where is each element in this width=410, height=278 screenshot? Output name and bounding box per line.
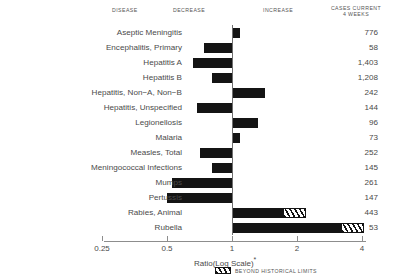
cases-current-4-weeks-value: 1,403	[330, 57, 378, 68]
column-header-disease: DISEASE	[112, 7, 138, 13]
legend: BEYOND HISTORICAL LIMITS	[215, 267, 317, 274]
beyond-historical-limits-bar	[283, 208, 306, 218]
cases-current-4-weeks-value: 96	[330, 117, 378, 128]
x-axis-tick	[297, 236, 298, 241]
disease-label: Aseptic Meningitis	[0, 27, 182, 38]
legend-label: BEYOND HISTORICAL LIMITS	[235, 268, 317, 274]
disease-label: Hepatitis, Unspecified	[0, 102, 182, 113]
cases-current-4-weeks-value: 443	[330, 207, 378, 218]
chart-row: Hepatitis B1,208	[0, 70, 410, 85]
disease-label: Legionellosis	[0, 117, 182, 128]
chart-row: Hepatitis A1,403	[0, 55, 410, 70]
chart-row: Aseptic Meningitis776	[0, 25, 410, 40]
ratio-bar	[232, 118, 258, 128]
chart-row: Meningococcal Infections145	[0, 160, 410, 175]
disease-label: Measles, Total	[0, 147, 182, 158]
cases-current-4-weeks-value: 776	[330, 27, 378, 38]
x-axis-title-footnote-marker: *	[254, 256, 257, 263]
cases-current-4-weeks-value: 261	[330, 177, 378, 188]
chart-row: Rubella53	[0, 220, 410, 235]
column-header-decrease: DECREASE	[173, 7, 205, 13]
cases-current-4-weeks-value: 1,208	[330, 72, 378, 83]
cases-current-4-weeks-value: 53	[330, 222, 378, 233]
disease-label: Mumps	[0, 177, 182, 188]
chart-row: Mumps261	[0, 175, 410, 190]
x-axis-tick-label: 0.5	[161, 244, 172, 253]
chart-row: Malaria73	[0, 130, 410, 145]
x-axis-tick	[102, 236, 103, 241]
disease-label: Malaria	[0, 132, 182, 143]
ratio-bar	[232, 28, 240, 38]
cases-current-4-weeks-value: 252	[330, 147, 378, 158]
x-axis-tick-label: 0.25	[94, 244, 110, 253]
column-header-cases: CASES CURRENT 4 WEEKS	[326, 5, 386, 17]
disease-label: Rubella	[0, 222, 182, 233]
disease-label: Meningococcal Infections	[0, 162, 182, 173]
ratio-bar	[212, 73, 232, 83]
cases-current-4-weeks-value: 58	[330, 42, 378, 53]
chart-row: Encephalitis, Primary58	[0, 40, 410, 55]
ratio-bar	[232, 223, 341, 233]
ratio-bar	[232, 208, 283, 218]
notifiable-disease-chart: DISEASE DECREASE INCREASE CASES CURRENT …	[0, 0, 410, 278]
ratio-bar	[193, 58, 232, 68]
cases-current-4-weeks-value: 242	[330, 87, 378, 98]
disease-label: Hepatitis B	[0, 72, 182, 83]
column-header-increase: INCREASE	[263, 7, 293, 13]
cases-current-4-weeks-value: 144	[330, 102, 378, 113]
disease-label: Hepatitis A	[0, 57, 182, 68]
cases-current-4-weeks-value: 73	[330, 132, 378, 143]
x-axis-title: Ratio(Log Scale)*	[194, 256, 256, 268]
chart-rows: Aseptic Meningitis776Encephalitis, Prima…	[0, 25, 410, 235]
disease-label: Pertussis	[0, 192, 182, 203]
x-axis-line	[104, 241, 366, 242]
chart-row: Legionellosis96	[0, 115, 410, 130]
ratio-bar	[197, 103, 232, 113]
chart-row: Hepatitis, Unspecified144	[0, 100, 410, 115]
ratio-bar	[200, 148, 232, 158]
chart-row: Measles, Total252	[0, 145, 410, 160]
x-axis-tick-label: 1	[230, 244, 234, 253]
reference-line-ratio-1	[232, 25, 233, 235]
ratio-bar	[204, 43, 232, 53]
cases-current-4-weeks-value: 147	[330, 192, 378, 203]
x-axis-tick-label: 2	[295, 244, 299, 253]
legend-swatch-hatch-icon	[215, 267, 231, 274]
chart-row: Hepatitis, Non−A, Non−B242	[0, 85, 410, 100]
ratio-bar	[212, 163, 232, 173]
disease-label: Rabies, Animal	[0, 207, 182, 218]
x-axis-tick	[362, 236, 363, 241]
x-axis-tick	[232, 236, 233, 241]
x-axis-tick	[167, 236, 168, 241]
ratio-bar	[232, 88, 265, 98]
x-axis-tick-label: 4	[360, 244, 364, 253]
column-header-cases-line2: 4 WEEKS	[326, 11, 386, 17]
disease-label: Encephalitis, Primary	[0, 42, 182, 53]
chart-row: Rabies, Animal443	[0, 205, 410, 220]
ratio-bar	[232, 133, 240, 143]
disease-label: Hepatitis, Non−A, Non−B	[0, 87, 182, 98]
cases-current-4-weeks-value: 145	[330, 162, 378, 173]
chart-row: Pertussis147	[0, 190, 410, 205]
